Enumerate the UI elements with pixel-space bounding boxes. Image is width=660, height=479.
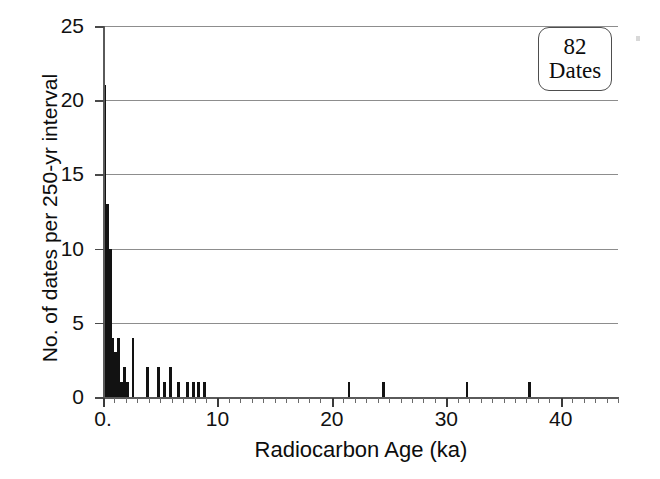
x-tick-minor-34: [492, 398, 493, 403]
x-tick-minor-36: [515, 398, 516, 403]
histogram-bar: [177, 382, 180, 397]
x-tick-minor-5: [160, 398, 161, 403]
x-tick-minor-33: [481, 398, 482, 403]
x-tick-minor-41: [572, 398, 573, 403]
histogram-bar: [169, 367, 172, 397]
x-tick-major-10: [217, 398, 219, 407]
y-axis-line: [103, 26, 105, 398]
x-tick-minor-2: [126, 398, 127, 403]
x-tick-minor-45: [618, 398, 619, 403]
x-tick-major-0: [103, 398, 105, 407]
histogram-bar: [203, 382, 206, 397]
gridline-y-20: [103, 100, 618, 101]
x-tick-minor-7: [183, 398, 184, 403]
y-axis-title: No. of dates per 250-yr interval: [38, 28, 62, 408]
x-tick-minor-32: [469, 398, 470, 403]
x-tick-minor-9: [206, 398, 207, 403]
histogram-bar: [163, 382, 166, 397]
histogram-bar: [382, 382, 385, 397]
x-tick-minor-25: [389, 398, 390, 403]
gridline-y-10: [103, 249, 618, 250]
x-tick-major-30: [446, 398, 448, 407]
x-tick-minor-17: [298, 398, 299, 403]
x-tick-minor-6: [172, 398, 173, 403]
gridline-y-5: [103, 323, 618, 324]
x-tick-minor-35: [504, 398, 505, 403]
x-axis-line: [103, 397, 619, 399]
x-tick-minor-21: [343, 398, 344, 403]
x-tick-minor-26: [401, 398, 402, 403]
x-tick-minor-18: [309, 398, 310, 403]
x-tick-minor-37: [526, 398, 527, 403]
x-tick-minor-3: [137, 398, 138, 403]
x-tick-label-40: 40: [549, 408, 572, 429]
histogram-bar: [132, 338, 135, 397]
x-tick-label-10: 10: [206, 408, 229, 429]
histogram-bar: [186, 382, 189, 397]
y-tick-25: [95, 26, 104, 28]
y-tick-10: [95, 249, 104, 251]
x-tick-major-40: [561, 398, 563, 407]
histogram-bar: [528, 382, 531, 397]
x-tick-minor-12: [240, 398, 241, 403]
x-tick-label-20: 20: [320, 408, 343, 429]
radiocarbon-age-histogram-figure: 0510152025 0.10203040 Radiocarbon Age (k…: [0, 0, 660, 479]
y-tick-5: [95, 323, 104, 325]
histogram-bar: [348, 382, 351, 397]
x-tick-minor-38: [538, 398, 539, 403]
y-tick-15: [95, 174, 104, 176]
x-tick-minor-4: [149, 398, 150, 403]
x-tick-minor-43: [595, 398, 596, 403]
dates-count-value: 82: [564, 35, 587, 59]
histogram-bar: [192, 382, 195, 397]
x-tick-minor-13: [252, 398, 253, 403]
histogram-bar: [197, 382, 200, 397]
x-tick-label-0: 0.: [94, 408, 112, 429]
x-tick-minor-42: [584, 398, 585, 403]
x-tick-minor-24: [378, 398, 379, 403]
x-tick-minor-16: [286, 398, 287, 403]
x-tick-minor-1: [114, 398, 115, 403]
gridline-y-25: [103, 26, 618, 27]
x-tick-minor-19: [320, 398, 321, 403]
x-tick-minor-27: [412, 398, 413, 403]
x-tick-major-20: [332, 398, 334, 407]
x-tick-minor-22: [355, 398, 356, 403]
histogram-bar: [157, 367, 160, 397]
x-axis-title: Radiocarbon Age (ka): [103, 437, 619, 463]
x-tick-minor-11: [229, 398, 230, 403]
dates-count-annotation: 82 Dates: [538, 27, 612, 91]
x-tick-minor-29: [435, 398, 436, 403]
x-tick-label-30: 30: [435, 408, 458, 429]
histogram-bar: [146, 367, 149, 397]
scan-artifact: [636, 36, 640, 41]
x-tick-minor-31: [458, 398, 459, 403]
x-tick-minor-44: [607, 398, 608, 403]
x-tick-minor-23: [366, 398, 367, 403]
dates-count-label: Dates: [549, 59, 601, 83]
x-tick-minor-14: [263, 398, 264, 403]
histogram-bar: [126, 382, 129, 397]
gridline-y-15: [103, 174, 618, 175]
x-tick-minor-39: [549, 398, 550, 403]
histogram-bar: [466, 382, 469, 397]
x-tick-minor-28: [423, 398, 424, 403]
x-tick-minor-8: [195, 398, 196, 403]
x-tick-minor-15: [275, 398, 276, 403]
y-tick-20: [95, 100, 104, 102]
